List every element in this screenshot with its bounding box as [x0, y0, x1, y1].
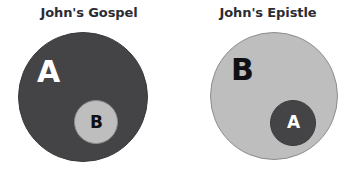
set-label-inner-a: A [287, 114, 300, 131]
euler-diagram-gospel: A B [0, 25, 178, 174]
set-label-inner-b: B [90, 114, 103, 131]
set-circle-outer-b [210, 32, 338, 160]
euler-diagram-epistle: B A [179, 25, 357, 174]
panel-title-epistle: John's Epistle [179, 5, 357, 20]
set-label-outer-a: A [37, 57, 60, 87]
set-circle-outer-a [18, 32, 148, 162]
set-label-outer-b: B [231, 55, 254, 85]
panel-title-gospel: John's Gospel [0, 5, 178, 20]
panel-johns-gospel: John's Gospel A B [0, 0, 178, 174]
panel-johns-epistle: John's Epistle B A [179, 0, 357, 174]
